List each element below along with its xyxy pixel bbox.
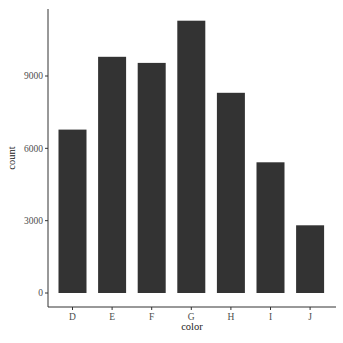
y-axis-title: count: [6, 146, 17, 169]
x-axis-title: color: [181, 321, 203, 332]
y-tick-label: 9000: [24, 71, 43, 81]
x-tick-label: D: [69, 312, 76, 322]
bar-I: [257, 162, 285, 293]
y-axis-ticks: 0300060009000: [24, 71, 48, 298]
x-axis-ticks: DEFGHIJ: [69, 307, 312, 322]
bar-J: [296, 225, 324, 293]
x-tick-label: I: [269, 312, 272, 322]
bar-G: [177, 21, 205, 293]
bar-F: [138, 63, 166, 293]
bars-group: [59, 21, 325, 293]
y-tick-label: 6000: [24, 144, 43, 154]
x-tick-label: J: [308, 312, 312, 322]
bar-H: [217, 93, 245, 293]
bar-D: [59, 130, 87, 293]
x-tick-label: F: [149, 312, 154, 322]
x-tick-label: E: [109, 312, 115, 322]
x-tick-label: H: [227, 312, 234, 322]
bar-chart: 0300060009000 DEFGHIJ color count: [0, 0, 343, 343]
y-tick-label: 3000: [24, 216, 43, 226]
bar-E: [98, 57, 126, 293]
y-tick-label: 0: [38, 288, 43, 298]
